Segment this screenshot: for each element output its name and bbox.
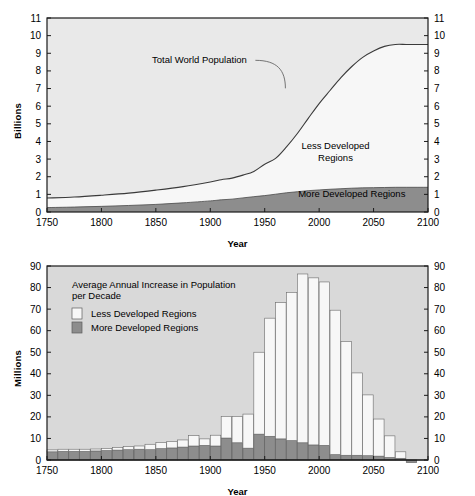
bar-segment-more-developed: [286, 441, 296, 460]
svg-text:1950: 1950: [254, 465, 277, 476]
bar-segment-more-developed: [134, 449, 144, 460]
top-chart-population-area: Billions Year 00112233445566778899101011…: [0, 0, 475, 248]
svg-text:20: 20: [30, 411, 42, 422]
svg-text:11: 11: [31, 13, 42, 24]
svg-text:1900: 1900: [199, 465, 222, 476]
bar-segment-less-developed: [58, 449, 68, 451]
bar-segment-more-developed: [352, 455, 362, 460]
svg-text:7: 7: [434, 83, 440, 94]
legend-label: More Developed Regions: [91, 322, 198, 333]
bar-segment-less-developed: [254, 352, 264, 434]
svg-text:8: 8: [434, 65, 440, 76]
svg-text:60: 60: [30, 325, 42, 336]
svg-text:1800: 1800: [90, 217, 113, 228]
svg-text:9: 9: [434, 48, 440, 59]
bar-group: [112, 448, 122, 461]
svg-text:6: 6: [434, 101, 440, 112]
top-chart-plot: 0011223344556677889910101111175018001850…: [0, 0, 475, 248]
bottom-chart-y-axis-label: Millions: [12, 350, 23, 387]
bar-group: [69, 449, 79, 460]
svg-text:1900: 1900: [199, 217, 222, 228]
bar-segment-more-developed: [308, 445, 318, 460]
svg-text:2: 2: [35, 171, 41, 182]
svg-text:1850: 1850: [145, 217, 168, 228]
bar-segment-more-developed: [167, 448, 177, 460]
svg-text:40: 40: [30, 368, 42, 379]
bar-group: [123, 447, 133, 460]
bar-segment-less-developed: [352, 373, 362, 455]
bottom-chart-x-axis-label: Year: [0, 486, 475, 496]
bar-segment-more-developed: [80, 451, 90, 460]
bar-segment-less-developed: [330, 310, 340, 454]
svg-text:1750: 1750: [36, 217, 59, 228]
svg-text:9: 9: [35, 48, 41, 59]
bar-segment-more-developed: [91, 451, 101, 460]
bar-group: [395, 452, 405, 460]
bar-segment-less-developed: [265, 318, 275, 436]
bar-segment-more-developed: [297, 443, 307, 460]
svg-text:50: 50: [434, 347, 446, 358]
bar-segment-more-developed: [123, 450, 133, 460]
svg-text:1950: 1950: [254, 217, 277, 228]
legend-title-line2: per Decade: [72, 290, 121, 301]
svg-text:60: 60: [434, 325, 446, 336]
svg-text:80: 80: [30, 282, 42, 293]
bar-segment-less-developed: [341, 341, 351, 455]
bar-group: [308, 278, 318, 460]
bar-segment-more-developed: [145, 450, 155, 460]
bar-group: [254, 352, 264, 460]
svg-text:1850: 1850: [145, 465, 168, 476]
svg-text:70: 70: [30, 304, 42, 315]
annotation-total-world-population: Total World Population: [152, 54, 247, 65]
bar-segment-less-developed: [363, 395, 373, 456]
legend-swatch: [72, 322, 82, 333]
bar-segment-less-developed: [384, 436, 394, 458]
bar-segment-less-developed: [395, 452, 405, 458]
svg-text:6: 6: [35, 101, 41, 112]
bar-segment-more-developed: [178, 447, 188, 460]
bar-segment-more-developed: [101, 451, 111, 460]
bar-group: [145, 444, 155, 460]
bar-segment-less-developed: [276, 303, 286, 439]
svg-text:2000: 2000: [308, 217, 331, 228]
figure-root: Billions Year 00112233445566778899101011…: [0, 0, 475, 496]
bar-group: [167, 441, 177, 460]
bar-segment-less-developed: [308, 278, 318, 445]
bar-group: [221, 416, 231, 460]
svg-text:70: 70: [434, 304, 446, 315]
bar-group: [363, 395, 373, 460]
svg-text:11: 11: [434, 13, 445, 24]
bar-segment-less-developed: [101, 448, 111, 450]
bar-group: [286, 292, 296, 460]
svg-text:90: 90: [30, 261, 42, 272]
bar-group: [58, 449, 68, 460]
svg-text:0: 0: [434, 207, 440, 218]
top-chart-y-axis-label: Billions: [12, 103, 23, 139]
bar-segment-more-developed: [156, 449, 166, 460]
annotation-more-developed-regions: More Developed Regions: [298, 188, 405, 199]
bar-segment-less-developed: [232, 416, 242, 442]
bar-segment-less-developed: [221, 416, 231, 438]
bar-group: [319, 282, 329, 460]
svg-text:3: 3: [434, 154, 440, 165]
bar-segment-less-developed: [156, 443, 166, 449]
svg-text:0: 0: [35, 455, 41, 466]
svg-text:4: 4: [434, 136, 440, 147]
bar-segment-more-developed: [341, 455, 351, 460]
legend-swatch: [72, 308, 82, 319]
bar-group: [178, 440, 188, 460]
bar-segment-less-developed: [319, 282, 329, 445]
annotation-less-developed-regions-line2: Regions: [318, 152, 353, 163]
bottom-chart-annual-increase-bars: Millions Year 00101020203030404050506060…: [0, 248, 475, 496]
bar-group: [210, 435, 220, 460]
bar-group: [47, 450, 57, 460]
svg-text:80: 80: [434, 282, 446, 293]
bar-group: [101, 448, 111, 460]
svg-text:10: 10: [30, 30, 42, 41]
svg-text:0: 0: [35, 207, 41, 218]
bar-group: [352, 373, 362, 460]
bar-segment-less-developed: [297, 274, 307, 443]
bar-group: [276, 303, 286, 460]
bottom-chart-plot: 0010102020303040405050606070708080909017…: [0, 248, 475, 496]
bar-segment-more-developed: [69, 451, 79, 460]
